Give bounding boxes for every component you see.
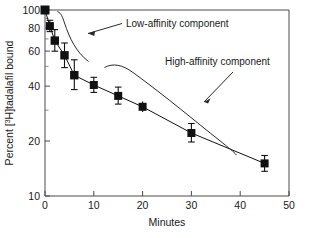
data-point-20min [139, 103, 147, 111]
y-label-10: 10 [28, 190, 40, 202]
y-label-80: 80 [28, 22, 40, 34]
y-label-20: 20 [28, 135, 40, 147]
data-point-45min [261, 159, 269, 167]
high-affinity-leader [204, 72, 233, 103]
y-axis-labels: 100 80 60 40 20 10 [22, 4, 40, 202]
dissociation-plot: 100 80 60 40 20 10 0 10 20 30 40 50 Minu… [0, 0, 311, 238]
x-axis-title: Minutes [149, 216, 186, 228]
data-point-4min [60, 51, 68, 59]
x-axis-labels: 0 10 20 30 40 50 [42, 199, 295, 211]
error-bars [47, 20, 268, 171]
data-point-2min [51, 36, 59, 44]
data-point-1min [46, 22, 54, 30]
x-label-30: 30 [186, 199, 198, 211]
data-point-0min [41, 6, 50, 15]
high-affinity-brace [105, 65, 237, 155]
data-point-15min [114, 92, 122, 100]
x-label-50: 50 [283, 199, 295, 211]
y-label-40: 40 [28, 80, 40, 92]
y-axis-title: Percent [3H]tadalafil bound [3, 40, 15, 165]
low-affinity-leader [88, 24, 122, 36]
svg-text:Percent [3H]tadalafil bound: Percent [3H]tadalafil bound [3, 40, 15, 165]
x-axis-ticks [45, 191, 289, 196]
x-label-40: 40 [234, 199, 246, 211]
y-axis-title-suffix: H]tadalafil bound [3, 40, 15, 119]
x-label-10: 10 [88, 199, 100, 211]
chart-figure: 100 80 60 40 20 10 0 10 20 30 40 50 Minu… [0, 0, 311, 238]
data-point-30min [187, 129, 195, 137]
plot-frame [45, 10, 289, 196]
data-point-10min [90, 81, 98, 89]
low-affinity-label: Low-affinity component [126, 18, 229, 29]
x-label-0: 0 [42, 199, 48, 211]
x-label-20: 20 [137, 199, 149, 211]
data-point-6min [70, 71, 78, 79]
y-axis-title-prefix: Percent [ [3, 123, 15, 165]
y-axis-ticks [45, 10, 50, 196]
high-affinity-label: High-affinity component [165, 56, 270, 67]
y-label-60: 60 [28, 45, 40, 57]
data-series-line [45, 10, 265, 163]
y-label-100: 100 [22, 4, 40, 16]
